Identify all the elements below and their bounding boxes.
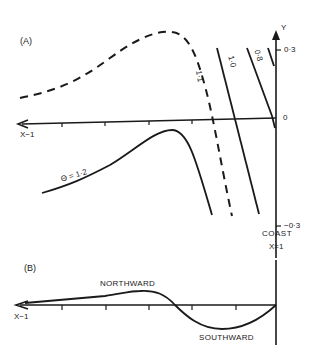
y-tick-label-top: 0·3 [284,46,296,54]
y-axis-arrow-icon [272,30,280,40]
coast-x-label: X=1 [269,243,283,251]
southward-label: SOUTHWARD [199,334,254,342]
coast-label: COAST [262,230,292,238]
x-axis-label-a: X−1 [20,131,34,139]
y-tick-label-zero: 0 [283,114,287,122]
curve-label-1.1: 1·1 [194,70,204,83]
diagram-canvas [0,0,317,359]
curve-theta-1.0 [217,48,259,214]
northward-label: NORTHWARD [100,280,155,288]
curve-label-1.0: 1·0 [226,55,237,68]
x-axis-label-b: X−1 [14,313,28,321]
panel-b-label: (B) [24,264,36,273]
curve-theta-small [268,48,274,66]
panel-a-label: (A) [20,37,32,46]
panel-b-transport-curve [25,291,276,329]
y-axis-label: Y [281,24,286,32]
